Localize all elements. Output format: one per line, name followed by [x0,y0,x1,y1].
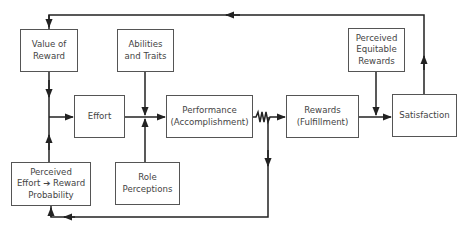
node-label-line: and Traits [125,51,167,63]
node-label-line: Satisfaction [399,110,449,122]
node-label-line: Effort [88,111,112,123]
node-perceived-effort-reward-probability: PerceivedEffort ➔ RewardProbability [11,162,91,206]
node-label-line: Abilities [125,39,167,51]
node-satisfaction: Satisfaction [392,94,457,137]
node-abilities-traits: Abilitiesand Traits [117,29,174,72]
node-label-line: Probability [17,190,85,202]
node-label-line: Reward [32,51,67,63]
node-role-perceptions: RolePerceptions [115,162,180,205]
node-label-line: (Accomplishment) [170,117,248,129]
node-label-line: Rewards [297,105,349,117]
node-rewards: Rewards(Fulfillment) [286,95,359,138]
node-perceived-equitable-rewards: PerceivedEquitableRewards [348,28,405,72]
node-label-line: Value of [32,39,67,51]
node-value-of-reward: Value ofReward [20,29,78,72]
node-effort: Effort [74,95,125,138]
node-label-line: Perceived [356,33,398,45]
node-label-line: Performance [170,105,248,117]
node-label-line: Role [123,172,173,184]
node-performance: Performance(Accomplishment) [166,95,253,138]
edge-performance-to-rewards-wavy [253,112,285,122]
node-label-line: Perceived [17,167,85,179]
node-label-line: Equitable [356,44,398,56]
node-label-line: Perceptions [123,184,173,196]
node-label-line: (Fulfillment) [297,117,349,129]
node-label-line: Effort ➔ Reward [17,178,85,190]
node-label-line: Rewards [356,56,398,68]
